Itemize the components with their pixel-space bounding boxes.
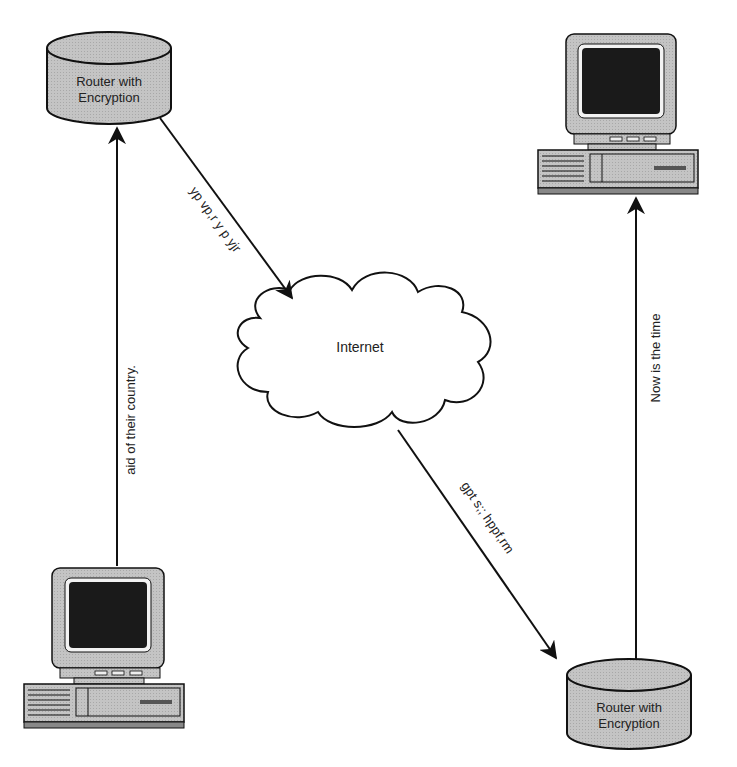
router-top-left: Router with Encryption [47,32,171,124]
network-diagram: Router with Encryption Router with Encry… [0,0,737,767]
computer-top-right [538,34,698,194]
cloud-label: Internet [336,339,384,355]
router-label-line1: Router with [596,700,662,715]
edge-label: aid of their country. [123,365,138,475]
edge-label: gpt s;; hppf,rm [458,479,517,556]
router-label-line2: Encryption [598,716,659,731]
edge-cipher-in: yp vp,r y p yjr [160,118,292,298]
edge-cipher-out: gpt s;; hppf,rm [398,430,556,658]
edge-label: Now is the time [648,314,663,403]
router-bottom-right: Router with Encryption [567,659,691,749]
edge-plain-left: aid of their country. [117,128,138,566]
edge-plain-right: Now is the time [636,198,663,660]
computer-bottom-left [24,568,184,728]
router-label-line1: Router with [76,74,142,89]
internet-cloud: Internet [238,273,491,427]
router-label-line2: Encryption [78,90,139,105]
